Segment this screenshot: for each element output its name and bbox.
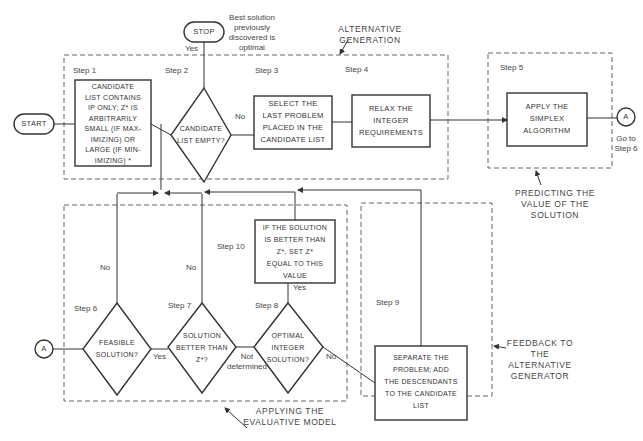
step5-label: Step 5 xyxy=(500,63,523,72)
step9-label: Step 9 xyxy=(376,298,399,307)
step2-text: CANDIDATE LIST EMPTY? xyxy=(171,123,231,147)
step3-label: Step 3 xyxy=(255,66,278,75)
step4-label: Step 4 xyxy=(345,65,368,74)
step9-text: SEPARATE THE PROBLEM; ADD THE DESCENDANT… xyxy=(375,352,467,412)
edge-step2-no: No xyxy=(235,112,245,121)
connector-a-in-label: A xyxy=(35,344,53,353)
step6-label: Step 6 xyxy=(74,304,97,313)
step7-label: Step 7 xyxy=(168,301,191,310)
step10-text: IF THE SOLUTION IS BETTER THAN Z*, SET Z… xyxy=(255,222,335,282)
group-label-alternative-generation: ALTERNATIVE GENERATION xyxy=(320,24,420,46)
group-label-predicting: PREDICTING THE VALUE OF THE SOLUTION xyxy=(500,188,610,221)
step2-label: Step 2 xyxy=(165,66,188,75)
edge-step7-not-determined: Not determined xyxy=(224,352,270,372)
edge-step8-yes: Yes xyxy=(293,283,306,292)
step3-text: SELECT THE LAST PROBLEM PLACED IN THE CA… xyxy=(254,98,332,146)
step6-text: FEASIBLE SOLUTION? xyxy=(88,337,146,361)
step1-text: CANDIDATE LIST CONTAINS IP ONLY; Z* IS A… xyxy=(75,82,151,166)
edge-step6-no: No xyxy=(100,263,110,272)
stop-note: Best solution previously discovered is o… xyxy=(222,13,282,53)
goto-step6-note: Go to Step 6 xyxy=(608,134,643,154)
step4-text: RELAX THE INTEGER REQUIREMENTS xyxy=(352,103,430,139)
group-label-applying: APPLYING THE EVALUATIVE MODEL xyxy=(230,406,350,428)
step8-label: Step 8 xyxy=(255,301,278,310)
group-label-feedback: FEEDBACK TO THE ALTERNATIVE GENERATOR xyxy=(500,338,580,382)
step10-label: Step 10 xyxy=(217,242,245,251)
edge-step7-no: No xyxy=(186,263,196,272)
connector-a-out-label: A xyxy=(617,112,635,121)
step5-text: APPLY THE SIMPLEX ALGORITHM xyxy=(507,101,587,137)
stop-label: STOP xyxy=(184,27,224,36)
edge-step2-yes: Yes xyxy=(185,44,198,53)
edge-step6-yes: Yes xyxy=(153,352,166,361)
edge-step8-no: No xyxy=(326,352,336,361)
step1-label: Step 1 xyxy=(73,66,96,75)
start-label: START xyxy=(14,119,54,128)
